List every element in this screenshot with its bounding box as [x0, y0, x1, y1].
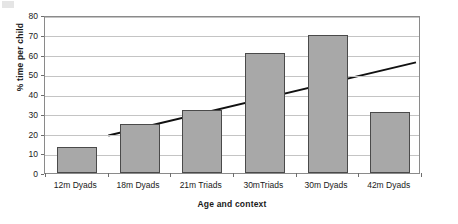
y-axis-tick-mark: [41, 36, 44, 37]
gridline: [45, 56, 419, 57]
y-axis-tick-label: 20: [14, 130, 38, 140]
gridline: [45, 96, 419, 97]
y-axis-tick-mark: [41, 56, 44, 57]
plot-area: [44, 16, 420, 174]
y-axis-tick-mark: [41, 174, 44, 175]
y-axis-tick-label: 50: [14, 70, 38, 80]
y-axis-tick-mark: [41, 135, 44, 136]
x-axis-category-label: 30m Dyads: [291, 180, 361, 190]
x-axis-tick-mark: [421, 173, 422, 177]
y-axis-tick-label: 40: [14, 90, 38, 100]
y-axis-tick-label: 60: [14, 51, 38, 61]
y-axis-tick-mark: [41, 115, 44, 116]
gridline: [45, 115, 419, 116]
bar: [120, 124, 160, 173]
y-axis-tick-label: 70: [14, 31, 38, 41]
x-axis-tick-mark: [108, 173, 109, 177]
gridline: [45, 36, 419, 37]
scan-artifact: [2, 1, 14, 8]
bar: [370, 112, 410, 173]
bar-chart: % time per child Age and context 0102030…: [0, 0, 458, 224]
x-axis-category-label: 21m Triads: [166, 180, 236, 190]
x-axis-tick-mark: [45, 173, 46, 177]
gridline: [45, 135, 419, 136]
gridline: [45, 76, 419, 77]
x-axis-tick-mark: [170, 173, 171, 177]
y-axis-tick-mark: [41, 75, 44, 76]
x-axis-category-label: 18m Dyads: [103, 180, 173, 190]
gridline: [45, 155, 419, 156]
y-axis-tick-label: 10: [14, 149, 38, 159]
x-axis-tick-mark: [358, 173, 359, 177]
y-axis-tick-mark: [41, 95, 44, 96]
x-axis-title: Age and context: [44, 199, 420, 209]
y-axis-tick-label: 0: [14, 169, 38, 179]
x-axis-tick-mark: [233, 173, 234, 177]
y-axis-tick-mark: [41, 16, 44, 17]
x-axis-tick-mark: [296, 173, 297, 177]
y-axis-tick-label: 30: [14, 110, 38, 120]
x-axis-category-label: 42m Dyads: [354, 180, 424, 190]
bar: [182, 110, 222, 173]
bar: [57, 147, 97, 173]
x-axis-category-label: 12m Dyads: [40, 180, 110, 190]
gridline: [45, 17, 419, 18]
bar: [308, 35, 348, 173]
x-axis-category-label: 30mTriads: [228, 180, 298, 190]
y-axis-tick-mark: [41, 154, 44, 155]
y-axis-tick-label: 80: [14, 11, 38, 21]
bar: [245, 53, 285, 173]
